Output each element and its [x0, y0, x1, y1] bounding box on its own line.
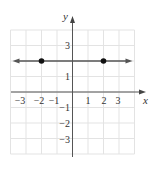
y-tick-label: 1: [65, 71, 70, 82]
y-tick-label: −3: [59, 134, 70, 145]
x-tick-label: 3: [116, 95, 121, 106]
x-tick-label: −1: [49, 95, 60, 106]
axes: [11, 16, 146, 157]
x-tick-label: −2: [34, 95, 45, 106]
x-tick-label: 1: [86, 95, 91, 106]
x-tick-label: −3: [15, 95, 26, 106]
y-tick-label: −1: [59, 102, 70, 113]
data-point: [101, 58, 107, 64]
coordinate-plane: −3−2−1123 31−1−2−3 x y: [0, 0, 159, 172]
y-axis-label: y: [62, 10, 68, 22]
y-axis-arrow-icon: [70, 16, 75, 23]
y-tick-label: −2: [59, 118, 70, 129]
x-axis-label: x: [142, 94, 148, 106]
y-tick-label: 3: [65, 40, 70, 51]
line-arrow-left-icon: [13, 59, 20, 64]
x-tick-label: 2: [102, 95, 107, 106]
line-arrow-right-icon: [126, 59, 133, 64]
data-point: [39, 58, 45, 64]
